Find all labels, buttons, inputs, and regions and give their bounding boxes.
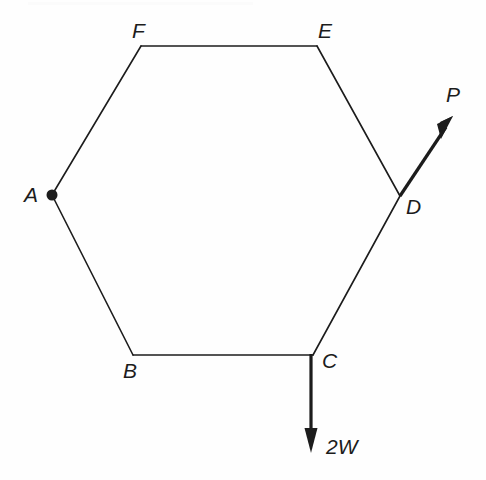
vertex-label-f: F [132,20,145,41]
force-arrow-2w [305,354,318,453]
force-2w-arrowhead [305,428,318,453]
vertex-label-c: C [322,350,337,371]
edge-DC [313,196,400,355]
hexagon-outline [52,46,400,355]
edge-AF [52,46,141,195]
vertex-label-d: D [406,196,421,217]
force-p-shaft [400,127,446,196]
force-label-p: P [446,84,460,105]
edge-BA [52,195,133,355]
vertex-label-b: B [123,360,137,381]
figure-canvas: A B C D E F P 2W [0,0,486,480]
hexagon-diagram-svg [0,0,486,480]
vertex-label-a: A [24,184,38,205]
pivot-dot-a [47,190,58,201]
force-label-2w: 2W [326,436,358,457]
vertex-label-e: E [318,20,332,41]
edge-ED [317,46,400,196]
force-arrow-p [400,116,453,196]
